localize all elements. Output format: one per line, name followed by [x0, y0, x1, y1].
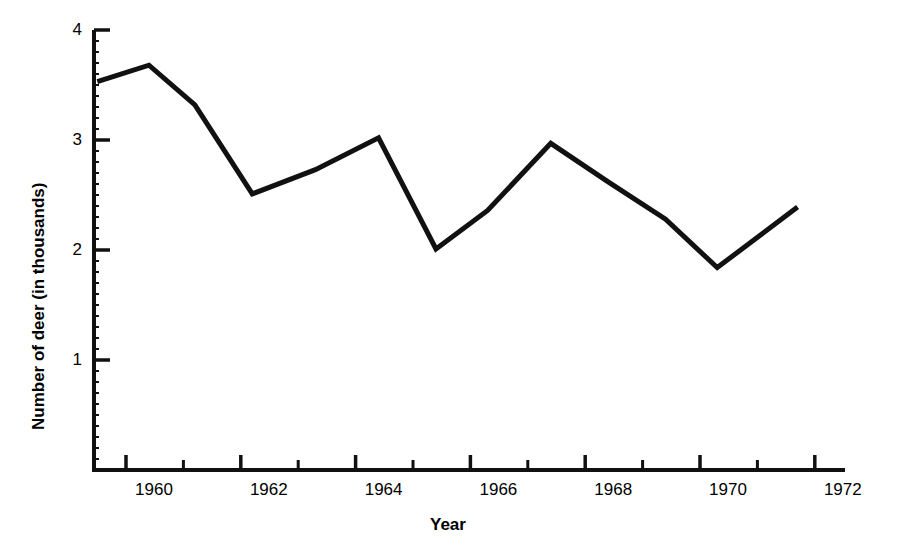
y-axis-ticks — [94, 30, 110, 459]
x-axis-tick-label: 1966 — [476, 481, 520, 498]
chart-plot-area — [0, 0, 899, 560]
x-axis-tick-label: 1962 — [247, 481, 291, 498]
y-axis-title: Number of deer (in thousands) — [30, 183, 47, 430]
x-axis-tick-label: 1968 — [591, 481, 635, 498]
x-axis-tick-label: 1964 — [362, 481, 406, 498]
y-axis-tick-label: 4 — [62, 21, 82, 38]
x-axis-title: Year — [430, 516, 466, 533]
x-axis-tick-label: 1972 — [821, 481, 865, 498]
y-axis-tick-label: 1 — [62, 351, 82, 368]
axis-spines — [92, 30, 845, 471]
x-axis-tick-label: 1970 — [706, 481, 750, 498]
y-axis-tick-label: 3 — [62, 131, 82, 148]
chart-figure: 4321 1960196219641966196819701972 Number… — [0, 0, 899, 560]
x-axis-tick-label: 1960 — [132, 481, 176, 498]
data-series-line — [97, 65, 797, 267]
y-axis-tick-label: 2 — [62, 241, 82, 258]
x-axis-ticks — [126, 455, 815, 470]
